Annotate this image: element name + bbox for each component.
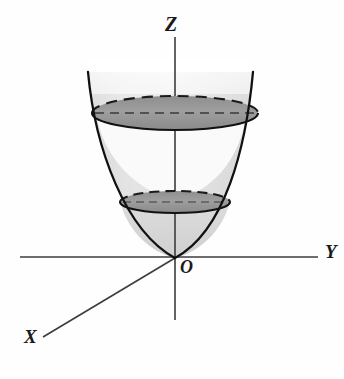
x-axis-label: X [24, 327, 37, 346]
figure-canvas [0, 0, 344, 379]
paraboloid-figure: Z Y X O [0, 0, 344, 379]
y-axis-label: Y [325, 242, 337, 261]
upper-ellipse-group [92, 96, 258, 130]
top-fade [80, 60, 266, 94]
lower-ellipse-group [120, 191, 230, 213]
origin-label: O [180, 258, 193, 276]
z-axis-label: Z [165, 14, 177, 34]
x-axis-line [43, 258, 175, 337]
